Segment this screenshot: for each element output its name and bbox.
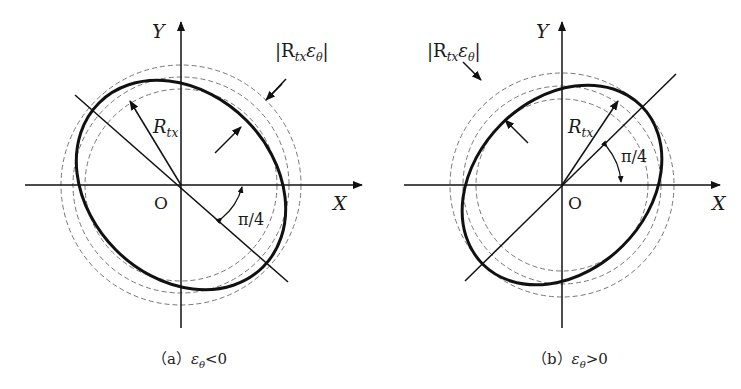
angle-label: π/4 [621, 147, 647, 166]
tolerance-arrow-in [463, 62, 481, 80]
caption-a-epsilon: ε [191, 350, 199, 368]
diagonal-line [465, 74, 676, 281]
tolerance-label: |Rtxεθ| [275, 40, 329, 64]
x-axis-label: X [331, 192, 348, 214]
caption-b-prefix: （b） [532, 350, 572, 368]
radius-label: Rtx [152, 116, 178, 140]
angle-arc [607, 147, 621, 182]
caption-b-relation: >0 [586, 350, 608, 368]
caption-b: （b）εθ>0 [532, 347, 608, 370]
y-axis-label: Y [152, 20, 167, 42]
caption-a: （a）εθ<0 [152, 347, 227, 370]
tolerance-arrow-out [215, 127, 241, 153]
tolerance-arrow-out [505, 120, 528, 143]
y-axis-label: Y [536, 20, 551, 42]
radius-arrow [130, 101, 181, 185]
caption-a-relation: <0 [205, 350, 227, 368]
caption-a-prefix: （a） [152, 350, 191, 368]
tolerance-label: |Rtxεθ| [427, 40, 481, 64]
origin-label: O [568, 193, 582, 213]
panel-a: Y X O π/4 Rtx |Rtxεθ| [25, 20, 362, 332]
x-axis-label: X [710, 192, 727, 214]
caption-b-epsilon: ε [572, 350, 580, 368]
radius-arrow [562, 101, 618, 185]
angle-label: π/4 [238, 210, 264, 229]
panel-b: Y X O π/4 Rtx |Rtxεθ| [404, 20, 727, 328]
figure-canvas: Y X O π/4 Rtx |Rtxεθ| Y X O π/4 Rtx |Rtx… [0, 0, 741, 389]
tolerance-arrow-in [266, 84, 282, 100]
origin-label: O [154, 193, 168, 213]
radius-label: Rtx [567, 116, 593, 140]
